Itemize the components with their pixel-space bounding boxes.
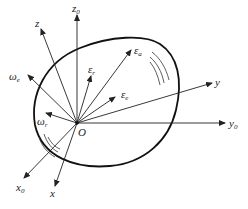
label-epsilon-a: εa (134, 44, 142, 58)
vector-epsilon-e (77, 97, 115, 123)
axis-y (77, 83, 212, 123)
label-y0: y0 (228, 117, 238, 131)
label-omega-e: ωe (9, 70, 20, 84)
label-omega-r: ωr (37, 115, 48, 129)
axis-x (55, 123, 77, 186)
axis-x0 (24, 123, 77, 178)
label-z0: z0 (71, 2, 80, 16)
rigid-body-diagram: O z0 z y y0 x0 x ωe ωr εr εa εe (0, 0, 248, 209)
label-x: x (49, 187, 55, 199)
label-x0: x0 (15, 181, 25, 195)
label-epsilon-e: εe (121, 88, 128, 102)
vectors (28, 50, 131, 123)
label-epsilon-r: εr (88, 63, 95, 77)
label-y: y (214, 76, 220, 88)
origin-label: O (78, 126, 86, 138)
vector-epsilon-r (77, 76, 91, 123)
origin-point (75, 121, 79, 125)
vector-epsilon-a (77, 50, 131, 123)
axis-z (41, 29, 77, 123)
hatch-marks-lower-left (39, 134, 60, 157)
label-z: z (34, 17, 40, 29)
hatch-marks-upper-right (150, 52, 169, 85)
